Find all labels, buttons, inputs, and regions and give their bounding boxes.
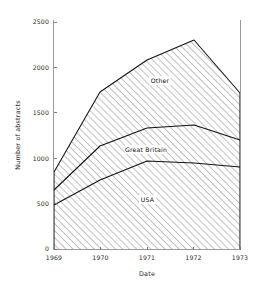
x-axis-title: Date (139, 270, 155, 278)
y-tick-labels: 0 500 1000 1500 2000 2500 (33, 18, 49, 252)
y-tick-label-2500: 2500 (33, 18, 49, 25)
series-annotation-usa: USA (139, 195, 156, 204)
y-axis-title: Number of abstracts (14, 100, 22, 170)
y-tick-label-0: 0 (45, 245, 49, 252)
y-tick-label-2000: 2000 (33, 64, 49, 71)
x-tick-label-1969: 1969 (46, 254, 62, 261)
series-annotation-great-britain: Great Britain (125, 145, 167, 154)
x-tick-label-1970: 1970 (92, 254, 108, 261)
stacked-area-chart: 0 500 1000 1500 2000 2500 1969 1970 1971… (0, 0, 259, 297)
x-tick-label-1973: 1973 (232, 254, 248, 261)
x-tick-label-1971: 1971 (139, 254, 155, 261)
series-label-usa: USA (141, 196, 155, 203)
series-annotation-other: Other (149, 76, 171, 85)
x-tick-labels: 1969 1970 1971 1972 1973 (46, 254, 248, 261)
y-tick-label-1000: 1000 (33, 155, 49, 162)
chart-figure: 0 500 1000 1500 2000 2500 1969 1970 1971… (0, 0, 259, 297)
y-tick-label-1500: 1500 (33, 109, 49, 116)
y-tick-label-500: 500 (37, 200, 49, 207)
x-tick-label-1972: 1972 (185, 254, 201, 261)
series-label-great-britain: Great Britain (125, 146, 167, 153)
series-label-other: Other (151, 77, 170, 84)
